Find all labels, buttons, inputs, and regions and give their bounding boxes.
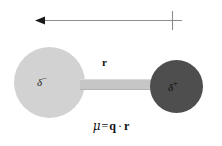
dipole-figure: δ− r δ+ μ=q·r [0, 0, 222, 146]
dipole-arrowhead-icon [35, 17, 45, 25]
atom-partial-negative [14, 47, 85, 118]
dipole-equation: μ=q·r [0, 120, 222, 132]
equation-operator: · [118, 119, 122, 133]
dipole-moment-arrow [0, 0, 222, 40]
equation-equals: = [102, 119, 109, 133]
equation-mu: μ [93, 119, 101, 133]
charge-label-negative: δ− [37, 77, 47, 88]
equation-distance: r [124, 119, 129, 133]
charge-label-positive: δ+ [168, 82, 178, 93]
bond-length-label: r [102, 57, 107, 68]
equation-charge: q [109, 119, 116, 133]
bond-bar [80, 79, 156, 90]
